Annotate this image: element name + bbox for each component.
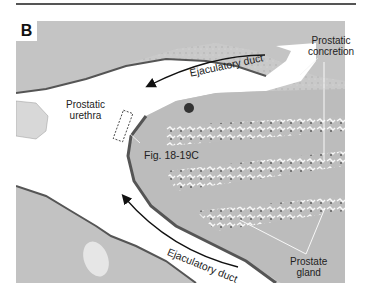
label-line: gland — [290, 267, 327, 278]
label-line: Prostate — [290, 256, 327, 267]
label-prostate-gland: Prostate gland — [290, 256, 327, 278]
label-fig-reference: Fig. 18-19C — [144, 150, 199, 161]
leader-prostate-gland-a — [306, 208, 325, 254]
label-prostatic-urethra: Prostatic urethra — [66, 99, 105, 121]
label-line: urethra — [66, 110, 105, 121]
label-line: concretion — [308, 46, 354, 57]
label-prostatic-concretion: Prostatic concretion — [308, 35, 354, 57]
label-line: Prostatic — [308, 35, 354, 46]
leader-prostate-gland-b — [240, 220, 306, 254]
label-line: Prostatic — [66, 99, 105, 110]
